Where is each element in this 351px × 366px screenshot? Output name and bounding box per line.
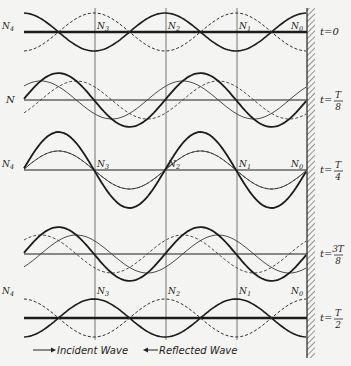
node-label-n3: N3 xyxy=(96,286,109,298)
time-label: t= xyxy=(320,248,332,259)
node-guide-lines xyxy=(95,8,237,340)
node-label-n1: N1 xyxy=(238,21,251,33)
wall-hatching xyxy=(307,8,315,358)
time-label-denominator: 2 xyxy=(334,320,341,330)
time-label: t= xyxy=(320,312,332,323)
node-label-n2: N2 xyxy=(167,286,180,298)
node-label-n3: N3 xyxy=(96,159,109,171)
time-label-numerator: T xyxy=(335,90,342,100)
panel-tT8: Nt=T8 xyxy=(5,73,343,127)
time-label-numerator: 3T xyxy=(332,244,345,254)
panel-tT2: N4N3N2N1N0t=T2 xyxy=(1,286,343,337)
time-label-numerator: T xyxy=(335,160,342,170)
node-label-n0: N0 xyxy=(290,21,303,33)
node-label-n1: N1 xyxy=(238,286,251,298)
node-label-n2: N2 xyxy=(167,21,180,33)
node-label-n3: N3 xyxy=(96,21,109,33)
legend-incident-label: Incident Wave xyxy=(57,345,128,356)
panel-t0: N4N3N2N1N0t=0 xyxy=(1,13,339,51)
panel-t3T8: t=3T8 xyxy=(24,227,345,281)
node-label-n0: N0 xyxy=(290,286,303,298)
time-label: t= xyxy=(320,94,332,105)
left-node-label: N xyxy=(5,94,16,105)
node-label-n4: N4 xyxy=(1,159,14,171)
wave-panels: N4N3N2N1N0t=0Nt=T8N4N3N2N1N0t=T4t=3T8N4N… xyxy=(1,13,345,337)
incident-arrowhead-icon xyxy=(51,348,56,353)
panel-tT4: N4N3N2N1N0t=T4 xyxy=(1,132,343,208)
node-label-n2: N2 xyxy=(167,159,180,171)
time-label: t=0 xyxy=(320,26,339,37)
time-label: t= xyxy=(320,164,332,175)
time-label-denominator: 4 xyxy=(334,172,341,182)
reflecting-wall xyxy=(307,8,315,358)
time-label-denominator: 8 xyxy=(335,102,341,112)
node-label-n4: N4 xyxy=(1,286,14,298)
node-label-n4: N4 xyxy=(1,21,14,33)
legend-reflected-label: Reflected Wave xyxy=(159,345,237,356)
reflected-arrowhead-icon xyxy=(143,348,148,353)
node-label-n0: N0 xyxy=(290,159,303,171)
legend: Incident Wave Reflected Wave xyxy=(33,345,237,356)
time-label-numerator: T xyxy=(335,308,342,318)
standing-wave-diagram: N4N3N2N1N0t=0Nt=T8N4N3N2N1N0t=T4t=3T8N4N… xyxy=(0,0,351,366)
node-label-n1: N1 xyxy=(238,159,251,171)
time-label-denominator: 8 xyxy=(335,256,341,266)
